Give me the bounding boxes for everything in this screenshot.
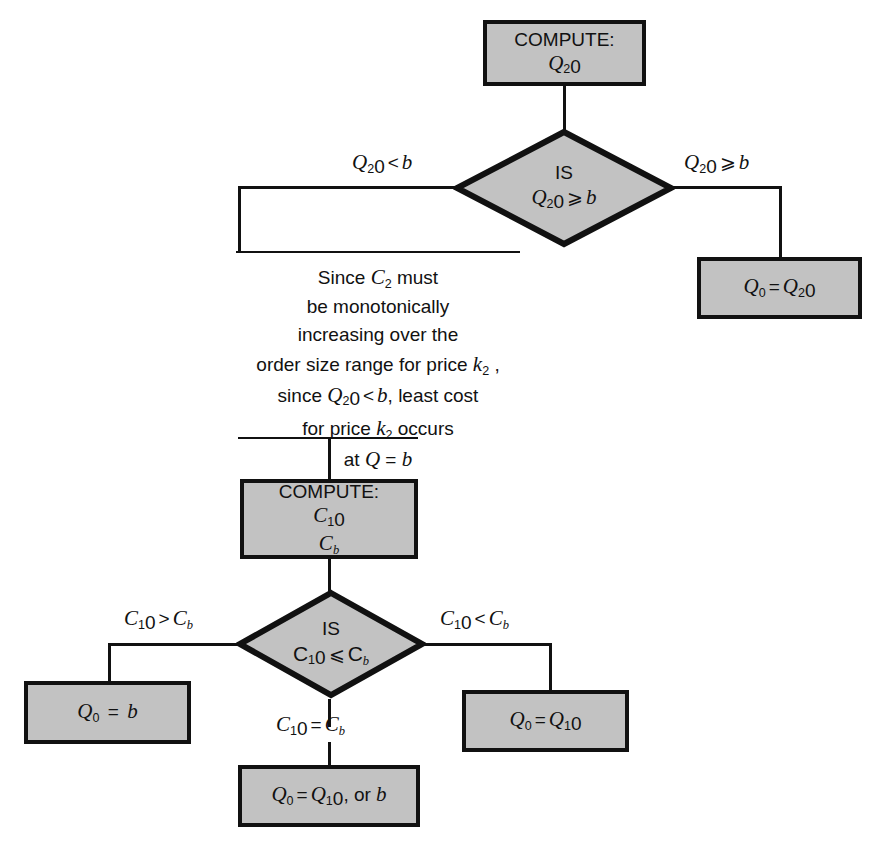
node-result-q0-eq-b: Q0 = b: [24, 681, 191, 744]
connector-q20-right-horizontal: [670, 186, 782, 189]
node-result-q0-eq-q20-line1: Q0=Q20: [744, 274, 816, 302]
flowchart-canvas: COMPUTE: Q20 IS Q20⩾b Q20<b Q20⩾b Q0=Q20…: [0, 0, 889, 845]
node-compute-q20-line2: Q20: [548, 51, 581, 79]
annotation-line7: at Q = b: [188, 444, 568, 475]
annotation-line6: for price k2 occurs: [188, 413, 568, 444]
connector-q20-right-vertical: [779, 186, 782, 258]
node-compute-c10-cb-line3: Cb: [319, 531, 339, 558]
connector-q20-left-horizontal: [238, 186, 458, 189]
connector-c10-left-horizontal: [108, 643, 238, 646]
connector-compute-q20-to-decision: [563, 86, 566, 130]
annotation-line5: since Q20<b, least cost: [188, 380, 568, 413]
node-result-q0-eq-q10-line1: Q0=Q10: [510, 707, 582, 735]
edge-label-c10-eq-cb: C10=Cb: [276, 712, 345, 740]
decision-c10-shape: [236, 589, 426, 699]
node-result-q0-eq-q10-or-b: Q0=Q10, or b: [238, 765, 420, 827]
node-result-q0-eq-q10-or-b-line1: Q0=Q10, or b: [271, 782, 386, 810]
decision-q20-shape: [453, 128, 675, 248]
annotation-text: Since C2 must be monotonically increasin…: [188, 262, 568, 475]
edge-label-c10-lt-cb: C10<Cb: [440, 606, 509, 634]
edge-label-c10-gt-cb: C10>Cb: [124, 606, 193, 634]
annotation-line3: increasing over the: [188, 321, 568, 349]
node-compute-q20-line1: COMPUTE:: [514, 28, 614, 51]
node-compute-c10-cb-line1: COMPUTE:: [279, 480, 379, 503]
annotation-line4: order size range for price k2 ,: [188, 349, 568, 380]
edge-label-q20-less-b: Q20<b: [352, 150, 412, 178]
connector-c10-right-vertical: [549, 643, 552, 691]
node-result-q0-eq-b-line1: Q0 = b: [77, 699, 137, 726]
node-compute-q20: COMPUTE: Q20: [483, 20, 646, 86]
node-result-q0-eq-q20: Q0=Q20: [697, 257, 862, 319]
node-decision-c10: IS C10⩽Cb: [236, 589, 426, 699]
connector-c10-down-lower: [328, 742, 331, 766]
connector-c10-right-horizontal: [422, 643, 552, 646]
connector-compute-c10-to-decision: [328, 559, 331, 592]
node-compute-c10-cb: COMPUTE: C10 Cb: [240, 479, 418, 559]
edge-label-q20-ge-b: Q20⩾b: [684, 150, 749, 178]
connector-c10-left-vertical: [108, 643, 111, 683]
node-decision-q20: IS Q20⩾b: [453, 128, 675, 248]
node-result-q0-eq-q10: Q0=Q10: [462, 690, 629, 752]
node-compute-c10-cb-line2: C10: [313, 503, 345, 531]
annotation-rule-top: [236, 251, 520, 253]
annotation-line1: Since C2 must: [188, 262, 568, 293]
annotation-line2: be monotonically: [188, 293, 568, 321]
connector-q20-left-vertical: [238, 186, 241, 252]
